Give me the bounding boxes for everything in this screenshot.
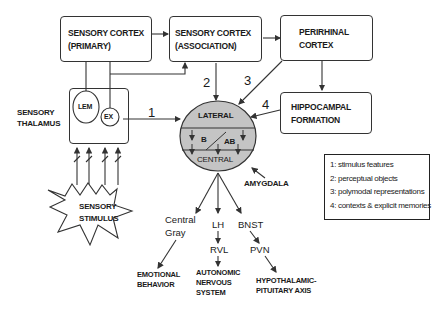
emotional-behavior-line2: BEHAVIOR — [137, 280, 174, 290]
thalamus-label-line1: SENSORY — [17, 107, 54, 118]
box-sensory-cortex-association: SENSORY CORTEX (ASSOCIATION) — [169, 16, 262, 62]
stimulus-label-line2: STIMULUS — [79, 213, 118, 224]
box-sensory-cortex-primary: SENSORY CORTEX (PRIMARY) — [60, 16, 152, 62]
region-lateral: LATERAL — [198, 110, 233, 121]
box-sensory-thalamus — [69, 88, 129, 144]
bnst-label: BNST — [238, 219, 263, 231]
legend-item: 2: perceptual objects — [325, 172, 429, 186]
pvn-label: PVN — [250, 244, 270, 256]
legend-item: 3: polymodal representations — [325, 185, 429, 199]
nucleus-lem-label: LEM — [78, 102, 92, 112]
label-line: (PRIMARY) — [68, 40, 111, 52]
region-central: CENTRAL — [197, 154, 233, 165]
ans-line1: AUTONOMIC — [196, 268, 240, 278]
central-gray-line1: Central — [165, 214, 196, 226]
region-accessory-basal: AB — [224, 136, 235, 147]
label-line: PERIRHINAL — [299, 26, 349, 38]
rvl-label: RVL — [210, 244, 228, 256]
nucleus-ex-label: EX — [104, 112, 113, 122]
region-basal: B — [201, 134, 207, 145]
pathway-number-1: 1 — [148, 106, 155, 119]
hpa-line1: HYPOTHALAMIC- — [256, 276, 316, 286]
label-line: (ASSOCIATION) — [175, 40, 236, 52]
ans-line2: NERVOUS — [196, 278, 232, 288]
emotional-behavior-line1: EMOTIONAL — [137, 270, 180, 280]
label-line: HIPPOCAMPAL — [291, 101, 351, 113]
label-line: FORMATION — [291, 114, 340, 126]
legend-box: 1: stimulus features 2: perceptual objec… — [324, 154, 430, 220]
box-perirhinal-cortex: PERIRHINAL CORTEX — [280, 15, 373, 61]
pathway-number-4: 4 — [262, 98, 269, 111]
pathway-number-2: 2 — [203, 76, 210, 89]
pathway-number-3: 3 — [244, 74, 251, 87]
legend-item: 4: contexts & explicit memories — [325, 199, 429, 213]
thalamus-label-line2: THALAMUS — [17, 118, 60, 129]
legend-item: 1: stimulus features — [325, 158, 429, 172]
label-line: SENSORY CORTEX — [68, 27, 144, 39]
amygdala-label: AMYGDALA — [244, 178, 289, 189]
lh-label: LH — [212, 219, 224, 231]
central-gray-line2: Gray — [165, 227, 186, 239]
hpa-line2: PITUITARY AXIS — [256, 286, 311, 296]
stimulus-label-line1: SENSORY — [79, 201, 116, 212]
label-line: SENSORY CORTEX — [175, 27, 251, 39]
box-hippocampal-formation: HIPPOCAMPAL FORMATION — [280, 92, 372, 134]
label-line: CORTEX — [299, 39, 333, 51]
ans-line3: SYSTEM — [196, 288, 226, 298]
